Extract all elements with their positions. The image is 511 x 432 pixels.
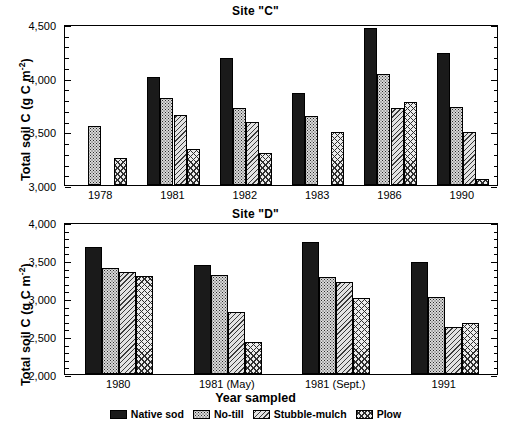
y-tick-major-right <box>491 338 497 339</box>
y-axis-tick-label: 4,000 <box>28 218 56 230</box>
y-tick-minor-right <box>494 361 498 362</box>
legend-label: Native sod <box>131 409 184 420</box>
y-tick-minor <box>65 330 69 331</box>
x-axis-tick-label: 1990 <box>450 189 474 201</box>
x-axis-tick-label: 1981 <box>160 189 184 201</box>
bar-no-till-1978 <box>88 126 101 185</box>
legend-item-plow: Plow <box>356 409 402 420</box>
y-tick-minor <box>65 90 69 91</box>
y-tick-major-right <box>491 300 497 301</box>
bar-plow-1986 <box>404 102 417 185</box>
bar-native-sod-1986 <box>364 28 377 185</box>
y-tick-major-right <box>491 262 497 263</box>
bar-native-sod-1983 <box>292 93 305 185</box>
y-tick-minor-right <box>494 353 498 354</box>
bar-no-till-1982 <box>233 108 246 185</box>
plot-area-site-c: 3,0003,5004,0004,500 <box>64 25 498 186</box>
y-tick-minor-right <box>494 239 498 240</box>
y-tick-minor <box>65 353 69 354</box>
y-tick-major <box>65 80 71 81</box>
y-tick-minor <box>65 239 69 240</box>
y-axis-tick-label: 4,000 <box>28 74 56 86</box>
bar-native-sod-1990 <box>437 53 450 185</box>
x-axis-tick-label: 1991 <box>432 378 456 390</box>
y-tick-minor-right <box>494 112 498 113</box>
y-tick-minor-right <box>494 144 498 145</box>
y-tick-major <box>65 262 71 263</box>
y-tick-minor-right <box>494 254 498 255</box>
panel-title-site-c: Site "C" <box>0 4 511 18</box>
y-tick-minor-right <box>494 315 498 316</box>
bar-no-till-1986 <box>377 74 390 185</box>
y-tick-minor <box>65 270 69 271</box>
bar-no-till-1981 <box>160 98 173 185</box>
x-axis-tick-label: 1981 (Sept.) <box>305 378 366 390</box>
bar-native-sod-1982 <box>220 58 233 185</box>
y-tick-major <box>65 224 71 225</box>
bar-plow-1981 <box>187 149 200 185</box>
plot-area-site-d: 2,0002,5003,0003,5004,000 <box>64 223 498 375</box>
y-tick-minor <box>65 368 69 369</box>
y-tick-minor-right <box>494 323 498 324</box>
soil-carbon-figure: Site "C" Total soil C (g C m-2) 3,0003,5… <box>0 0 511 432</box>
y-tick-minor-right <box>494 292 498 293</box>
x-axis-tick-label: 1980 <box>106 378 130 390</box>
y-tick-minor-right <box>494 47 498 48</box>
y-axis-tick-label: 4,500 <box>28 20 56 32</box>
y-tick-minor-right <box>494 123 498 124</box>
y-tick-minor <box>65 292 69 293</box>
bar-stubble-mulch-1982 <box>246 122 259 185</box>
y-tick-major <box>65 26 71 27</box>
bar-no-till-1981-sept- <box>319 277 336 374</box>
bar-plow-1981-may- <box>245 342 262 374</box>
y-tick-minor <box>65 323 69 324</box>
panel-site-c: Site "C" Total soil C (g C m-2) 3,0003,5… <box>0 0 511 205</box>
y-tick-major <box>65 376 71 377</box>
figure-legend: Native sodNo-tillStubble-mulchPlow <box>0 409 511 420</box>
y-tick-minor <box>65 361 69 362</box>
bar-stubble-mulch-1981 <box>174 115 187 185</box>
y-tick-minor <box>65 47 69 48</box>
legend-swatch-plow <box>356 410 373 419</box>
y-tick-major-right <box>491 80 497 81</box>
y-tick-minor-right <box>494 69 498 70</box>
y-tick-minor <box>65 112 69 113</box>
y-tick-major-right <box>491 26 497 27</box>
bar-stubble-mulch-1991 <box>445 327 462 375</box>
y-tick-minor-right <box>494 166 498 167</box>
x-axis-tick-label: 1986 <box>377 189 401 201</box>
panel-site-d: Site "D" Total soil C (g C m-2) 2,0002,5… <box>0 205 511 432</box>
y-tick-minor-right <box>494 232 498 233</box>
bar-group-container-site-d <box>65 224 497 374</box>
bar-plow-1981-sept- <box>353 298 370 374</box>
y-tick-minor <box>65 285 69 286</box>
y-axis-tick-label: 2,000 <box>28 370 56 382</box>
legend-swatch-native-sod <box>110 410 127 419</box>
y-tick-minor-right <box>494 101 498 102</box>
y-axis-title-site-d: Total soil C (g C m-2) <box>17 263 33 386</box>
bar-plow-1991 <box>462 323 479 374</box>
y-tick-minor <box>65 254 69 255</box>
legend-item-native-sod: Native sod <box>110 409 184 420</box>
legend-label: Stubble-mulch <box>274 409 347 420</box>
y-tick-minor-right <box>494 346 498 347</box>
legend-swatch-stubble-mulch <box>253 410 270 419</box>
y-axis-tick-label: 3,500 <box>28 127 56 139</box>
y-tick-major-right <box>491 224 497 225</box>
y-axis-title-close: ) <box>19 58 33 62</box>
bar-group-container-site-c <box>65 26 497 185</box>
bar-no-till-1983 <box>305 116 318 185</box>
y-axis-tick-label: 3,500 <box>28 256 56 268</box>
y-axis-tick-label: 3,000 <box>28 294 56 306</box>
legend-item-no-till: No-till <box>193 409 244 420</box>
y-tick-minor-right <box>494 270 498 271</box>
y-tick-minor <box>65 315 69 316</box>
y-axis-tick-label: 2,500 <box>28 332 56 344</box>
legend-label: Plow <box>377 409 402 420</box>
y-tick-minor-right <box>494 368 498 369</box>
y-tick-minor-right <box>494 90 498 91</box>
y-tick-major <box>65 133 71 134</box>
x-axis-tick-label: 1978 <box>88 189 112 201</box>
legend-item-stubble-mulch: Stubble-mulch <box>253 409 347 420</box>
bar-stubble-mulch-1986 <box>391 108 404 185</box>
